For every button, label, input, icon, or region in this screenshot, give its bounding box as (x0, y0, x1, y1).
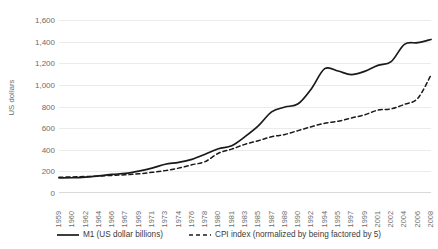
chart-container: US dollars 02004006008001,0001,2001,4001… (0, 0, 438, 249)
x-axis-tick-label: 1960 (68, 211, 75, 227)
y-axis-tick-label: 0 (3, 189, 55, 198)
x-axis-tick-label: 1985 (254, 211, 261, 227)
x-axis-tick-label: 1971 (148, 211, 155, 227)
y-axis-tick-labels: 02004006008001,0001,2001,4001,600 (0, 20, 55, 193)
x-axis-tick-label: 1959 (55, 211, 62, 227)
y-axis-tick-label: 400 (3, 145, 55, 154)
series-line (59, 75, 431, 177)
x-axis-tick-label: 1976 (188, 211, 195, 227)
chart-legend: M1 (US dollar billions)CPI index (normal… (0, 230, 438, 239)
x-axis-tick-labels: 1959196019621964196619671969197119731974… (59, 195, 431, 227)
legend-dashed-line-icon (189, 231, 211, 239)
y-axis-tick-label: 1,400 (3, 37, 55, 46)
y-axis-tick-label: 1,600 (3, 16, 55, 25)
x-axis-tick-label: 1997 (347, 211, 354, 227)
y-axis-tick-label: 600 (3, 124, 55, 133)
legend-entry: CPI index (normalized by being factored … (189, 230, 381, 239)
legend-entry: M1 (US dollar billions) (57, 230, 163, 239)
x-axis-tick-label: 1999 (361, 211, 368, 227)
y-axis-tick-label: 1,000 (3, 80, 55, 89)
x-axis-tick-label: 1981 (228, 211, 235, 227)
legend-label: CPI index (normalized by being factored … (215, 230, 381, 239)
x-axis-tick-label: 1992 (307, 211, 314, 227)
y-axis-tick-label: 1,200 (3, 59, 55, 68)
x-axis-tick-label: 1966 (108, 211, 115, 227)
x-axis-tick-label: 1973 (161, 211, 168, 227)
x-axis-tick-label: 1969 (135, 211, 142, 227)
legend-solid-line-icon (57, 231, 79, 239)
x-axis-tick-label: 1978 (201, 211, 208, 227)
y-axis-tick-label: 200 (3, 167, 55, 176)
x-axis-tick-label: 1988 (281, 211, 288, 227)
x-axis-tick-label: 2006 (414, 211, 421, 227)
x-axis-tick-label: 1983 (241, 211, 248, 227)
legend-label: M1 (US dollar billions) (83, 230, 163, 239)
series-line (59, 39, 431, 177)
x-axis-tick-label: 1990 (294, 211, 301, 227)
plot-area (59, 20, 431, 193)
x-axis-tick-label: 2008 (427, 211, 434, 227)
x-axis-tick-label: 1994 (321, 211, 328, 227)
x-axis-tick-label: 1980 (214, 211, 221, 227)
x-axis-tick-label: 1987 (268, 211, 275, 227)
x-axis-tick-label: 2001 (374, 211, 381, 227)
x-axis-tick-label: 1974 (175, 211, 182, 227)
x-axis-tick-label: 1962 (82, 211, 89, 227)
y-axis-tick-label: 800 (3, 102, 55, 111)
x-axis-tick-label: 1995 (334, 211, 341, 227)
x-axis-tick-label: 1964 (95, 211, 102, 227)
x-axis-tick-label: 2004 (400, 211, 407, 227)
x-axis-tick-label: 1967 (121, 211, 128, 227)
x-axis-tick-label: 2002 (387, 211, 394, 227)
series-layer (59, 20, 431, 193)
